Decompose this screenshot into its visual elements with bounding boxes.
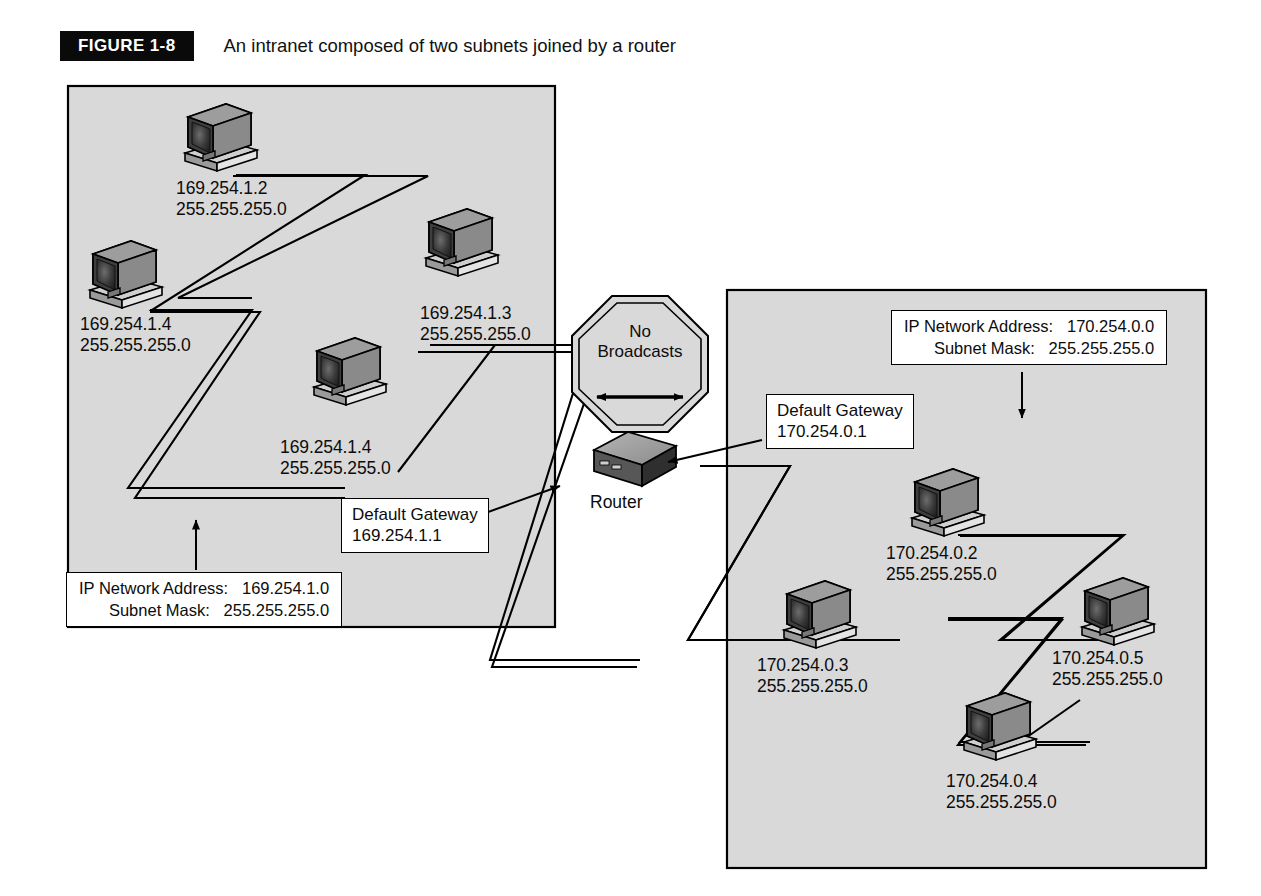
host-mask: 255.255.255.0 bbox=[1052, 669, 1163, 690]
sign-line-1: No bbox=[578, 322, 702, 342]
sign-line-2: Broadcasts bbox=[578, 342, 702, 362]
right-default-gateway-callout: Default Gateway 170.254.0.1 bbox=[766, 394, 914, 449]
host-mask: 255.255.255.0 bbox=[946, 792, 1057, 813]
router-icon bbox=[594, 432, 676, 486]
host-ip: 169.254.1.3 bbox=[420, 303, 531, 324]
host-170-254-0-2 bbox=[912, 469, 984, 536]
callout-address: 170.254.0.1 bbox=[777, 421, 903, 442]
subnet-mask-value: 255.255.255.0 bbox=[1049, 339, 1155, 357]
callout-title: Default Gateway bbox=[777, 400, 903, 421]
network-address-value: 169.254.1.0 bbox=[242, 579, 329, 597]
host-169-254-1-2 bbox=[185, 104, 257, 171]
host-170-254-0-3 bbox=[784, 581, 856, 648]
no-broadcasts-sign bbox=[572, 296, 708, 432]
host-mask: 255.255.255.0 bbox=[280, 458, 391, 479]
left-network-address-row: IP Network Address: 169.254.1.0 bbox=[79, 577, 329, 599]
subnet-mask-value: 255.255.255.0 bbox=[224, 601, 330, 619]
left-subnet-info-box: IP Network Address: 169.254.1.0 Subnet M… bbox=[66, 572, 342, 627]
network-diagram bbox=[0, 0, 1261, 896]
left-subnet-mask-row: Subnet Mask: 255.255.255.0 bbox=[79, 599, 329, 621]
host-mask: 255.255.255.0 bbox=[420, 324, 531, 345]
host-170-254-0-5 bbox=[1082, 578, 1154, 645]
right-network-address-row: IP Network Address: 170.254.0.0 bbox=[904, 315, 1154, 337]
callout-title: Default Gateway bbox=[352, 504, 478, 525]
callout-address: 169.254.1.1 bbox=[352, 525, 478, 546]
host-ip: 169.254.1.4 bbox=[280, 437, 391, 458]
figure-page: FIGURE 1-8 An intranet composed of two s… bbox=[0, 0, 1261, 896]
left-default-gateway-callout: Default Gateway 169.254.1.1 bbox=[341, 498, 489, 553]
host-mask: 255.255.255.0 bbox=[176, 199, 287, 220]
host-169-254-1-4-lower bbox=[314, 338, 386, 405]
host-ip: 170.254.0.2 bbox=[886, 543, 997, 564]
host-mask: 255.255.255.0 bbox=[886, 564, 997, 585]
no-broadcasts-label: No Broadcasts bbox=[578, 322, 702, 362]
host-label-169-254-1-4-lower: 169.254.1.4 255.255.255.0 bbox=[280, 437, 391, 479]
host-label-170-254-0-4: 170.254.0.4 255.255.255.0 bbox=[946, 771, 1057, 813]
right-subnet-mask-row: Subnet Mask: 255.255.255.0 bbox=[904, 337, 1154, 359]
host-mask: 255.255.255.0 bbox=[80, 335, 191, 356]
host-170-254-0-4 bbox=[964, 693, 1036, 760]
host-ip: 170.254.0.5 bbox=[1052, 648, 1163, 669]
subnet-mask-label: Subnet Mask: bbox=[109, 601, 210, 619]
host-ip: 170.254.0.4 bbox=[946, 771, 1057, 792]
host-label-169-254-1-3: 169.254.1.3 255.255.255.0 bbox=[420, 303, 531, 345]
host-label-170-254-0-5: 170.254.0.5 255.255.255.0 bbox=[1052, 648, 1163, 690]
network-address-label: IP Network Address: bbox=[79, 579, 228, 597]
host-label-169-254-1-2: 169.254.1.2 255.255.255.0 bbox=[176, 178, 287, 220]
host-mask: 255.255.255.0 bbox=[757, 676, 868, 697]
host-ip: 170.254.0.3 bbox=[757, 655, 868, 676]
host-169-254-1-4-upper bbox=[90, 241, 162, 308]
host-169-254-1-3 bbox=[426, 209, 498, 276]
host-label-170-254-0-3: 170.254.0.3 255.255.255.0 bbox=[757, 655, 868, 697]
router-label: Router bbox=[590, 492, 643, 513]
network-address-label: IP Network Address: bbox=[904, 317, 1053, 335]
host-ip: 169.254.1.4 bbox=[80, 314, 191, 335]
host-label-169-254-1-4-upper: 169.254.1.4 255.255.255.0 bbox=[80, 314, 191, 356]
host-label-170-254-0-2: 170.254.0.2 255.255.255.0 bbox=[886, 543, 997, 585]
subnet-mask-label: Subnet Mask: bbox=[934, 339, 1035, 357]
network-address-value: 170.254.0.0 bbox=[1067, 317, 1154, 335]
host-ip: 169.254.1.2 bbox=[176, 178, 287, 199]
right-subnet-info-box: IP Network Address: 170.254.0.0 Subnet M… bbox=[891, 310, 1167, 365]
